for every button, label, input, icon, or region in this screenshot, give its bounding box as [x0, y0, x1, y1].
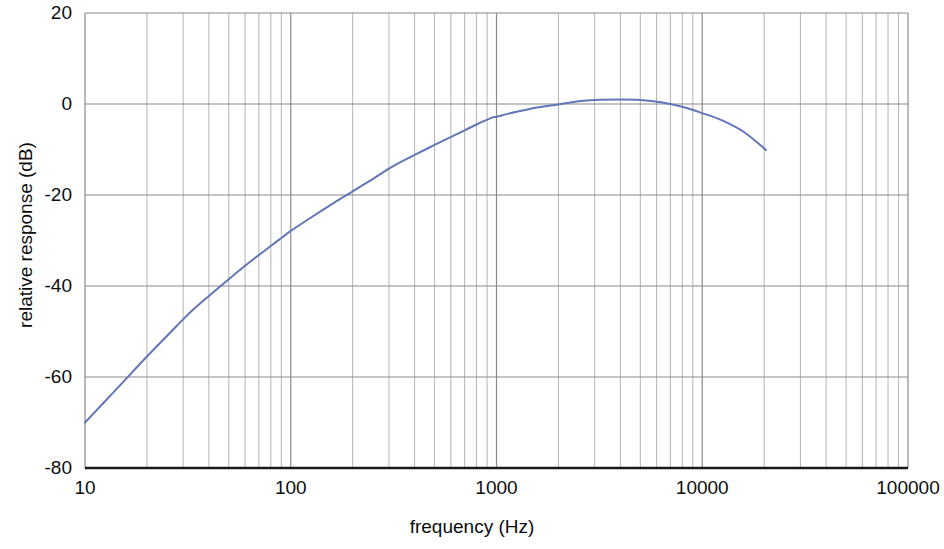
y-axis-title: relative response (dB): [15, 105, 37, 365]
x-tick-label: 1000: [475, 477, 517, 499]
x-axis-title: frequency (Hz): [0, 516, 944, 538]
chart-figure: 200-20-40-60-80 10100100010000100000 fre…: [0, 0, 944, 549]
x-tick-label: 100000: [876, 477, 939, 499]
x-tick-label: 10000: [676, 477, 729, 499]
y-tick-label: 20: [0, 2, 72, 24]
y-tick-label: -80: [0, 457, 72, 479]
response-curve: [85, 99, 766, 422]
y-tick-label: -60: [0, 366, 72, 388]
x-tick-label: 10: [74, 477, 95, 499]
minor-gridlines: [147, 13, 899, 468]
chart-plot-area: [0, 0, 944, 549]
x-tick-label: 100: [275, 477, 307, 499]
